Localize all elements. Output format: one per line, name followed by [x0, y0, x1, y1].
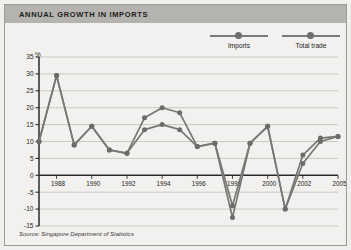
data-point: [336, 134, 341, 139]
x-axis-group: 198819901992199419961998200020022005: [39, 175, 346, 187]
data-point: [142, 115, 147, 120]
data-point: [89, 124, 94, 129]
data-point: [248, 141, 253, 146]
x-tick-label: 1994: [157, 180, 172, 187]
data-point: [160, 105, 165, 110]
data-point: [37, 139, 42, 144]
y-tick-label: 35: [26, 53, 34, 60]
y-tick-label: -15: [24, 222, 34, 229]
x-tick-label: 2000: [262, 180, 277, 187]
data-point: [177, 110, 182, 115]
source-note: Source: Singapore Department of Statisti…: [19, 231, 134, 237]
y-tick-label: 15: [26, 121, 34, 128]
y-tick-label: -10: [24, 205, 34, 212]
data-point: [300, 153, 305, 158]
series-group: [37, 73, 341, 220]
gridlines-group: [39, 57, 338, 226]
chart-svg: -15-10-505101520253035 19881990199219941…: [5, 23, 346, 245]
y-tick-label: 30: [26, 70, 34, 77]
data-point: [54, 73, 59, 78]
x-tick-label: 1988: [51, 180, 66, 187]
data-point: [177, 127, 182, 132]
data-point: [230, 203, 235, 208]
data-point: [283, 207, 288, 212]
data-point: [195, 144, 200, 149]
data-point: [265, 124, 270, 129]
y-tick-label: 25: [26, 87, 34, 94]
data-point: [212, 141, 217, 146]
y-tick-label: 0: [30, 172, 34, 179]
title-band: ANNUAL GROWTH IN IMPORTS: [5, 5, 346, 23]
x-tick-label: 1992: [121, 180, 136, 187]
data-point: [230, 215, 235, 220]
x-tick-label: 1996: [192, 180, 207, 187]
data-point: [142, 127, 147, 132]
x-tick-label: 2002: [297, 180, 312, 187]
chart-title: ANNUAL GROWTH IN IMPORTS: [5, 10, 148, 19]
data-point: [318, 136, 323, 141]
series-line-imports: [39, 76, 338, 218]
data-point: [107, 147, 112, 152]
y-tick-label: 5: [30, 155, 34, 162]
data-point: [160, 122, 165, 127]
data-point: [72, 142, 77, 147]
y-tick-label: -5: [28, 189, 34, 196]
y-tick-label: 10: [26, 138, 34, 145]
y-tick-label: 20: [26, 104, 34, 111]
x-tick-label: 2005: [332, 180, 346, 187]
data-point: [124, 151, 129, 156]
x-tick-label: 1990: [86, 180, 101, 187]
plot-area: % -15-10-505101520253035 198819901992199…: [5, 23, 346, 245]
chart-figure: ANNUAL GROWTH IN IMPORTS Imports Total t…: [0, 0, 351, 250]
